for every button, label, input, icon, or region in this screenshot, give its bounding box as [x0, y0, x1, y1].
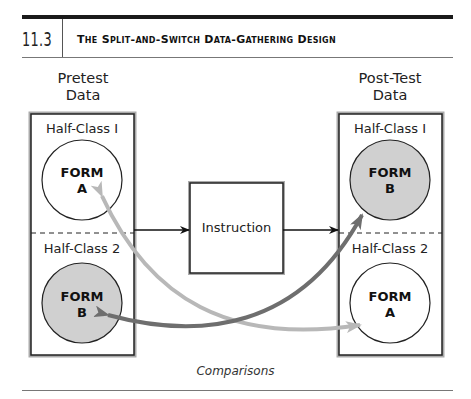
posttest-form-b-line2: B [385, 181, 395, 196]
posttest-form-b-line1: FORM [369, 165, 412, 180]
posttest-half-class-2-label: Half-Class 2 [352, 241, 429, 256]
bottom-rule [22, 390, 453, 391]
design-diagram: Half-Class I FORM A Half-Class 2 FORM B … [0, 0, 471, 399]
posttest-form-a-line2: A [385, 305, 395, 320]
pretest-form-b-line1: FORM [61, 289, 104, 304]
pretest-form-a-line1: FORM [61, 165, 104, 180]
comparisons-caption: Comparisons [0, 364, 471, 378]
posttest-box: Half-Class I FORM B Half-Class 2 FORM A [339, 114, 442, 355]
pretest-form-a-line2: A [77, 181, 87, 196]
posttest-form-a-line1: FORM [369, 289, 412, 304]
instruction-box: Instruction [190, 183, 283, 273]
pretest-half-class-1-label: Half-Class I [46, 121, 118, 136]
pretest-half-class-2-label: Half-Class 2 [44, 241, 121, 256]
posttest-form-b-circle [350, 140, 430, 220]
instruction-label: Instruction [202, 220, 272, 235]
posttest-half-class-1-label: Half-Class I [354, 121, 426, 136]
pretest-form-b-line2: B [77, 305, 87, 320]
